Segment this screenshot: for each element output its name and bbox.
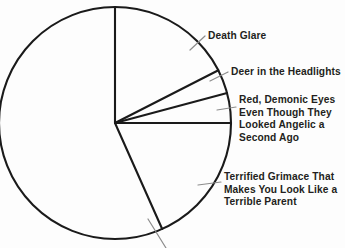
pie-label-red-demonic-eyes: Red, Demonic Eyes Even Though They Looke… [239,94,335,144]
slice-divider-grimace [115,123,162,229]
leader-line-demonic-eyes [217,107,236,110]
slice-divider-death-glare [115,70,218,123]
pie-label-terrified-grimace: Terrified Grimace That Makes You Look Li… [224,171,337,209]
pie-label-deer-in-the-headlights: Deer in the Headlights [231,66,341,79]
pie-label-death-glare: Death Glare [208,30,266,43]
leader-line-grimace [198,182,221,185]
pie-chart-figure: Death Glare Deer in the Headlights Red, … [0,0,345,248]
slice-divider-deer [115,93,227,123]
